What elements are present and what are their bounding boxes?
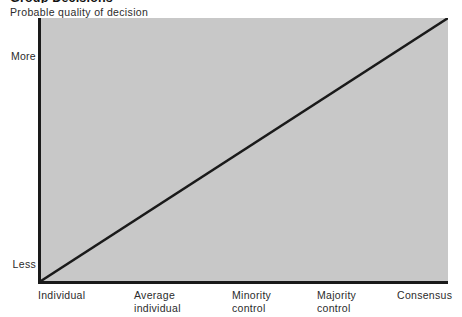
- x-tick-labels: Individual Average individual Minority c…: [0, 289, 462, 317]
- trend-line-svg: [41, 18, 448, 281]
- x-tick-label-average-individual: Average individual: [134, 289, 181, 315]
- y-axis-line: [38, 18, 41, 284]
- x-tick-line1: Average: [134, 289, 175, 301]
- y-axis-title: Probable quality of decision: [10, 6, 148, 18]
- trend-line: [41, 18, 448, 281]
- x-tick-line1: Majority: [317, 289, 356, 301]
- x-tick-line2: control: [232, 302, 271, 315]
- x-tick-label-majority-control: Majority control: [317, 289, 356, 315]
- cut-off-heading: Group Decisions: [10, 0, 200, 3]
- x-tick-line2: control: [317, 302, 356, 315]
- x-tick-label-individual: Individual: [38, 289, 85, 302]
- x-tick-line2: individual: [134, 302, 181, 315]
- figure-container: Group Decisions Probable quality of deci…: [0, 0, 462, 317]
- y-tick-label-more: More: [6, 50, 36, 62]
- x-tick-line1: Minority: [232, 289, 271, 301]
- y-tick-label-less: Less: [6, 258, 36, 270]
- x-tick-line1: Consensus: [397, 289, 452, 301]
- x-tick-label-minority-control: Minority control: [232, 289, 271, 315]
- x-tick-line1: Individual: [38, 289, 85, 301]
- x-tick-label-consensus: Consensus: [397, 289, 452, 302]
- x-axis-line: [38, 281, 448, 284]
